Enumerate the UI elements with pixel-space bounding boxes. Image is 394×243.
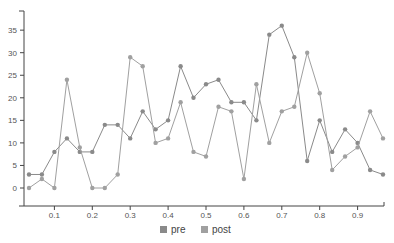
legend-item-post[interactable]: post bbox=[201, 224, 231, 235]
data-point[interactable] bbox=[52, 150, 56, 154]
data-point[interactable] bbox=[90, 150, 94, 154]
series-pre bbox=[27, 23, 385, 176]
data-point[interactable] bbox=[191, 96, 195, 100]
data-point[interactable] bbox=[65, 136, 69, 140]
x-axis: 0.10.20.30.40.50.60.70.80.9 bbox=[24, 202, 384, 220]
y-tick-label: 20 bbox=[8, 94, 17, 103]
data-point[interactable] bbox=[27, 172, 31, 176]
series-layer bbox=[27, 23, 385, 190]
data-point[interactable] bbox=[103, 123, 107, 127]
data-point[interactable] bbox=[65, 78, 69, 82]
data-point[interactable] bbox=[141, 109, 145, 113]
data-point[interactable] bbox=[368, 168, 372, 172]
data-point[interactable] bbox=[280, 109, 284, 113]
series-post bbox=[27, 51, 385, 191]
x-tick-label: 0.9 bbox=[352, 211, 364, 220]
data-point[interactable] bbox=[242, 100, 246, 104]
data-point[interactable] bbox=[355, 145, 359, 149]
data-point[interactable] bbox=[128, 55, 132, 59]
x-tick-label: 0.5 bbox=[200, 211, 212, 220]
data-point[interactable] bbox=[103, 186, 107, 190]
legend-item-pre[interactable]: pre bbox=[160, 224, 186, 235]
data-point[interactable] bbox=[343, 154, 347, 158]
data-point[interactable] bbox=[27, 186, 31, 190]
data-point[interactable] bbox=[280, 23, 284, 27]
data-point[interactable] bbox=[381, 136, 385, 140]
y-tick-label: 0 bbox=[13, 184, 18, 193]
data-point[interactable] bbox=[166, 118, 170, 122]
data-point[interactable] bbox=[216, 78, 220, 82]
line-chart: 05101520253035 0.10.20.30.40.50.60.70.80… bbox=[0, 0, 394, 243]
data-point[interactable] bbox=[318, 91, 322, 95]
x-tick-label: 0.3 bbox=[125, 211, 137, 220]
data-point[interactable] bbox=[267, 32, 271, 36]
data-point[interactable] bbox=[330, 168, 334, 172]
data-point[interactable] bbox=[204, 82, 208, 86]
data-point[interactable] bbox=[178, 100, 182, 104]
x-tick-label: 0.2 bbox=[87, 211, 99, 220]
data-point[interactable] bbox=[330, 150, 334, 154]
data-point[interactable] bbox=[267, 141, 271, 145]
x-tick-label: 0.1 bbox=[49, 211, 61, 220]
legend-label: pre bbox=[171, 224, 186, 235]
x-tick-label: 0.7 bbox=[276, 211, 288, 220]
data-point[interactable] bbox=[191, 150, 195, 154]
data-point[interactable] bbox=[216, 105, 220, 109]
data-point[interactable] bbox=[78, 145, 82, 149]
data-point[interactable] bbox=[254, 118, 258, 122]
y-tick-label: 25 bbox=[8, 71, 17, 80]
data-point[interactable] bbox=[52, 186, 56, 190]
data-point[interactable] bbox=[305, 159, 309, 163]
legend: prepost bbox=[160, 224, 231, 235]
y-tick-label: 30 bbox=[8, 49, 17, 58]
x-tick-label: 0.4 bbox=[163, 211, 175, 220]
x-tick-label: 0.6 bbox=[238, 211, 250, 220]
data-point[interactable] bbox=[229, 100, 233, 104]
data-point[interactable] bbox=[292, 55, 296, 59]
data-point[interactable] bbox=[115, 123, 119, 127]
data-point[interactable] bbox=[115, 172, 119, 176]
data-point[interactable] bbox=[204, 154, 208, 158]
data-point[interactable] bbox=[381, 172, 385, 176]
data-point[interactable] bbox=[40, 177, 44, 181]
data-point[interactable] bbox=[242, 177, 246, 181]
data-point[interactable] bbox=[254, 82, 258, 86]
x-tick-label: 0.8 bbox=[314, 211, 326, 220]
y-tick-label: 5 bbox=[13, 161, 18, 170]
data-point[interactable] bbox=[141, 64, 145, 68]
data-point[interactable] bbox=[178, 64, 182, 68]
y-tick-label: 15 bbox=[8, 116, 17, 125]
y-axis: 05101520253035 bbox=[8, 11, 24, 206]
y-tick-label: 35 bbox=[8, 26, 17, 35]
legend-swatch bbox=[160, 226, 167, 233]
data-point[interactable] bbox=[229, 109, 233, 113]
data-point[interactable] bbox=[343, 127, 347, 131]
data-point[interactable] bbox=[153, 141, 157, 145]
data-point[interactable] bbox=[166, 136, 170, 140]
data-point[interactable] bbox=[305, 51, 309, 55]
series-line-post bbox=[29, 53, 383, 188]
legend-label: post bbox=[212, 224, 231, 235]
series-line-pre bbox=[29, 26, 383, 175]
y-tick-label: 10 bbox=[8, 139, 17, 148]
data-point[interactable] bbox=[40, 172, 44, 176]
data-point[interactable] bbox=[292, 105, 296, 109]
data-point[interactable] bbox=[318, 118, 322, 122]
data-point[interactable] bbox=[368, 109, 372, 113]
legend-swatch bbox=[201, 226, 208, 233]
data-point[interactable] bbox=[128, 136, 132, 140]
data-point[interactable] bbox=[90, 186, 94, 190]
